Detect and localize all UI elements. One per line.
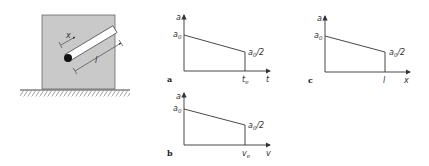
curve — [325, 36, 385, 72]
a0-label: a0 — [173, 30, 182, 40]
panel-label-a: a — [167, 74, 172, 84]
diagram-canvas: x l a a0 a0/2 te t a a a0 a0/2 l x c a a… — [0, 0, 429, 166]
a0-label: a0 — [314, 31, 323, 41]
a0-half-label: a0/2 — [248, 121, 264, 131]
x-axis-label: t — [266, 75, 270, 84]
apparatus: x l — [20, 15, 130, 97]
rod-x-label: x — [65, 31, 71, 40]
ve-label: ve — [242, 149, 251, 159]
chart-c: a a0 a0/2 l x c — [308, 14, 410, 85]
a0-half-label: a0/2 — [248, 48, 264, 58]
a0-label: a0 — [173, 104, 182, 114]
te-label: te — [242, 75, 249, 85]
chart-a: a a0 a0/2 te t a — [167, 13, 270, 85]
panel-label-c: c — [308, 75, 313, 85]
y-axis-label: a — [317, 14, 322, 23]
panel-label-b: b — [167, 148, 173, 158]
x-axis-label: v — [266, 149, 271, 158]
x-axis-label: x — [403, 76, 409, 85]
chart-b: a a0 a0/2 ve v b — [167, 92, 271, 159]
curve — [184, 109, 245, 145]
y-axis-label: a — [176, 13, 181, 22]
y-axis-label: a — [176, 92, 181, 101]
a0-half-label: a0/2 — [389, 48, 405, 58]
l-label: l — [383, 76, 386, 85]
ground-hatching — [20, 91, 130, 97]
curve — [184, 35, 245, 71]
ball — [64, 54, 72, 62]
